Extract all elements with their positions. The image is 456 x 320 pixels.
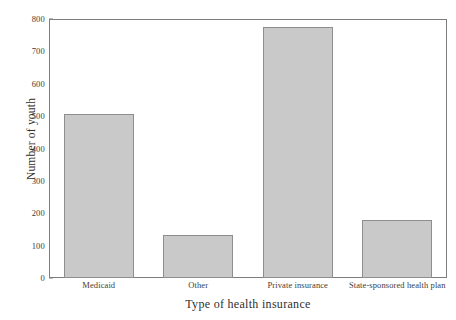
y-axis-ticks: 0100200300400500600700800 [0,0,49,320]
y-tick-label: 200 [32,208,45,218]
x-tick-label: Medicaid [82,280,115,290]
x-axis-title: Type of health insurance [43,297,453,312]
y-tick-label: 700 [32,46,45,56]
x-axis-tick-labels: MedicaidOtherPrivate insuranceState-spon… [49,280,447,296]
y-tick-label: 800 [32,14,45,24]
y-tick-label: 600 [32,79,45,89]
y-tick-label: 100 [32,241,45,251]
bars-container [49,19,447,278]
y-tick-label: 300 [32,176,45,186]
y-tick-label: 500 [32,111,45,121]
bar [263,27,333,278]
bar [163,235,233,278]
y-tick-label: 400 [32,144,45,154]
x-tick-label: Other [188,280,208,290]
bar [362,220,432,278]
y-tick-label: 0 [41,273,45,283]
bar-chart: Number of youth 010020030040050060070080… [0,0,456,320]
x-tick-label: Private insurance [268,280,328,290]
bar [64,114,134,278]
x-tick-label: State-sponsored health plan [349,280,446,290]
